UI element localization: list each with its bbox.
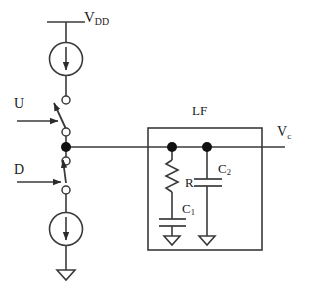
circuit-schematic-svg xyxy=(0,0,310,292)
switch-u-top-terminal xyxy=(62,96,70,104)
switch-d-bottom-terminal xyxy=(62,186,70,194)
label-c2: C2 xyxy=(218,162,231,177)
ground-main-icon xyxy=(57,270,75,280)
label-c1-sub: 1 xyxy=(191,207,195,217)
label-d: D xyxy=(14,163,24,177)
label-u: U xyxy=(14,97,24,111)
label-vc-base: V xyxy=(277,124,287,139)
junction-dot-c2-branch xyxy=(202,142,212,152)
label-vdd: VDD xyxy=(84,10,109,27)
ground-c1-icon xyxy=(164,236,180,245)
label-c2-base: C xyxy=(218,161,227,176)
junction-dot-r-branch xyxy=(167,142,177,152)
label-vdd-base: V xyxy=(84,9,95,25)
ground-c2-icon xyxy=(199,236,215,245)
label-c1-base: C xyxy=(182,201,191,216)
switch-u-bottom-terminal xyxy=(62,128,70,136)
label-r: R xyxy=(185,176,194,189)
label-vc-sub: c xyxy=(287,131,291,141)
label-vdd-sub: DD xyxy=(95,16,109,27)
label-c2-sub: 2 xyxy=(227,167,231,177)
label-vc: Vc xyxy=(277,125,291,141)
switch-u-blade xyxy=(54,103,66,129)
label-lf: LF xyxy=(192,104,207,117)
label-c1: C1 xyxy=(182,202,195,217)
resistor-r-zigzag xyxy=(166,160,178,192)
schematic-canvas: VDD Vc LF U D R C1 C2 xyxy=(0,0,310,292)
junction-dot-output-node xyxy=(61,142,71,152)
